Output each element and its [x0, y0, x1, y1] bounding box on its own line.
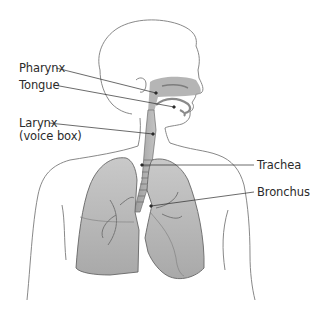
body-illustration [0, 0, 316, 310]
label-pharynx: Pharynx [19, 62, 65, 75]
airway-head [148, 77, 201, 116]
torso-outline [27, 143, 255, 300]
respiratory-diagram: Pharynx Tongue Larynx (voice box) Trache… [0, 0, 316, 310]
label-larynx-sub: (voice box) [19, 130, 82, 143]
leader-pharynx [56, 68, 156, 93]
label-bronchus: Bronchus [257, 186, 310, 199]
right-side-lung [145, 159, 204, 279]
left-side-lung [76, 158, 139, 275]
label-tongue: Tongue [19, 79, 59, 92]
label-trachea: Trachea [257, 159, 301, 172]
